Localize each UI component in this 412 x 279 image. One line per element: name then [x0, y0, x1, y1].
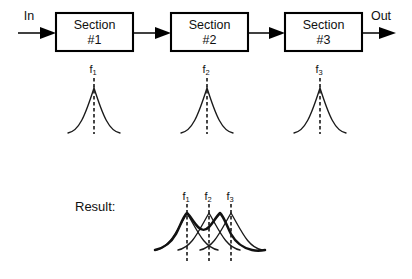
result-frequency-markers — [187, 204, 231, 261]
input-arrow — [18, 27, 56, 39]
connector-arrow-2-3 — [248, 27, 285, 39]
section-block-2-number: #2 — [203, 33, 217, 47]
output-label: Out — [371, 9, 392, 23]
connector-arrow-1-2 — [133, 27, 171, 39]
response-curve-1-frequency-label: f1 — [89, 63, 96, 77]
output-arrow — [362, 27, 396, 39]
section-block-2-title: Section — [189, 18, 231, 32]
section-block-3[interactable]: Section #3 — [285, 13, 362, 51]
result-frequency-label-1: f1 — [182, 190, 189, 204]
section-block-2[interactable]: Section #2 — [171, 13, 248, 51]
result-frequency-label-3: f3 — [226, 190, 233, 204]
result-label: Result: — [75, 199, 115, 214]
response-curve-3-frequency-label: f3 — [315, 63, 322, 77]
result-frequency-label-2: f2 — [204, 190, 211, 204]
response-curve-1 — [68, 78, 120, 134]
response-curve-2-frequency-label: f2 — [202, 63, 209, 77]
response-curve-2 — [181, 78, 233, 134]
section-block-1-title: Section — [74, 18, 116, 32]
response-curve-3 — [294, 78, 346, 134]
section-block-1-number: #1 — [88, 33, 102, 47]
filter-cascade-diagram: In Section #1 Section #2 Section #3 — [0, 0, 412, 279]
section-block-3-number: #3 — [317, 33, 331, 47]
section-block-1[interactable]: Section #1 — [56, 13, 133, 51]
section-block-3-title: Section — [303, 18, 345, 32]
input-label: In — [24, 9, 34, 23]
